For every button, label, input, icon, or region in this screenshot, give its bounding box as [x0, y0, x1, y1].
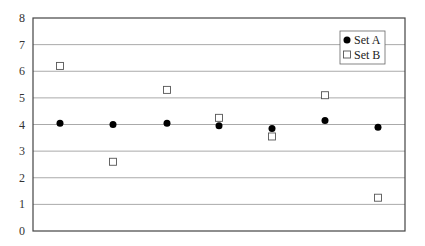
y-tick-label: 3	[19, 144, 25, 158]
y-tick-label: 8	[19, 11, 25, 25]
y-tick-label: 7	[19, 38, 25, 52]
set-a-point	[269, 125, 276, 132]
y-tick-label: 6	[19, 64, 25, 78]
y-tick-label: 5	[19, 91, 25, 105]
y-axis-ticks: 012345678	[19, 11, 25, 238]
legend-label-set-b: Set B	[354, 48, 380, 62]
set-a-point	[164, 120, 171, 127]
y-tick-label: 4	[19, 118, 25, 132]
y-tick-label: 0	[19, 224, 25, 238]
set-b-point	[110, 158, 117, 165]
set-a-point	[110, 121, 117, 128]
set-b-point	[164, 86, 171, 93]
scatter-chart: 012345678 Set A Set B	[0, 0, 425, 246]
set-b-point	[57, 62, 64, 69]
y-tick-label: 1	[19, 197, 25, 211]
legend-label-set-a: Set A	[354, 33, 381, 47]
set-b-point	[216, 114, 223, 121]
legend: Set A Set B	[340, 31, 385, 64]
y-tick-label: 2	[19, 171, 25, 185]
set-a-point	[322, 117, 329, 124]
set-a-point	[57, 120, 64, 127]
set-a-point	[375, 124, 382, 131]
set-b-point	[322, 92, 329, 99]
set-b-point	[375, 194, 382, 201]
set-a-point	[216, 122, 223, 129]
legend-marker-set-b	[344, 51, 351, 58]
data-points	[57, 62, 382, 201]
legend-marker-set-a	[344, 37, 351, 44]
set-b-point	[269, 133, 276, 140]
